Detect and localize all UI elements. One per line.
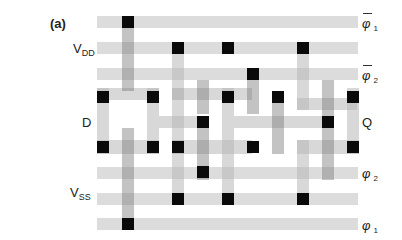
layout-diagram: (a) VDDDVSSφ1φ2Qφ2φ1 — [0, 0, 402, 240]
label-q: Q — [362, 116, 372, 129]
label-phi2-bar: φ2 — [362, 68, 378, 85]
contact-square — [222, 91, 234, 103]
label-phi2: φ2 — [362, 166, 378, 183]
contact-square — [147, 91, 159, 103]
contact-square — [222, 42, 234, 54]
metal-rail — [97, 218, 358, 230]
contact-square — [347, 91, 359, 103]
contact-square — [222, 193, 234, 205]
contact-square — [172, 193, 184, 205]
contact-square — [322, 116, 334, 128]
poly-gate — [197, 80, 209, 114]
contact-square — [197, 166, 209, 178]
overbar — [363, 13, 372, 14]
contact-square — [122, 16, 134, 28]
label-vss: VSS — [70, 186, 91, 204]
cell-layout-svg — [0, 0, 402, 240]
contact-square — [272, 91, 284, 103]
label-phi1-bar: φ1 — [362, 16, 378, 33]
contact-square — [172, 141, 184, 153]
contact-square — [247, 68, 259, 80]
label-d: D — [82, 116, 91, 129]
contact-square — [197, 116, 209, 128]
poly-gate — [272, 98, 284, 154]
metal-rail — [97, 68, 358, 80]
contact-square — [347, 141, 359, 153]
poly-gate — [322, 80, 334, 180]
poly-gate — [122, 128, 134, 230]
contact-square — [172, 42, 184, 54]
metal-rail — [97, 16, 358, 28]
label-phi1: φ1 — [362, 218, 378, 235]
diffusion-region — [297, 140, 309, 195]
contact-square — [122, 218, 134, 230]
contact-square — [247, 141, 259, 153]
contact-square — [97, 91, 109, 103]
diffusion-region — [222, 154, 234, 195]
contact-square — [297, 193, 309, 205]
overbar — [363, 65, 372, 66]
contact-square — [97, 141, 109, 153]
label-vdd: VDD — [73, 42, 95, 60]
contact-square — [297, 42, 309, 54]
contact-square — [147, 141, 159, 153]
